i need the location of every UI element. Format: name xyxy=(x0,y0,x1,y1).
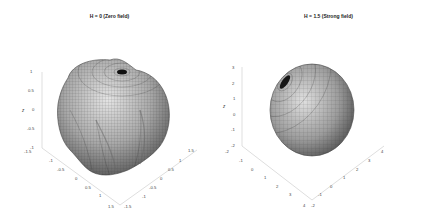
svg-text:-2: -2 xyxy=(225,149,229,154)
svg-text:z: z xyxy=(222,104,226,109)
svg-text:2: 2 xyxy=(276,184,279,189)
svg-text:0: 0 xyxy=(75,176,78,181)
x-axis-ticks: -2 -1 0 1 2 3 4 xyxy=(225,149,306,208)
svg-text:z: z xyxy=(21,108,25,113)
svg-text:-1: -1 xyxy=(142,194,146,199)
svg-text:0.5: 0.5 xyxy=(28,88,34,93)
surface-mesh xyxy=(220,13,364,160)
svg-text:1: 1 xyxy=(179,158,182,163)
plot-zero-field: H = 0 (Zero field) 1 0.5 0 -0.5 xyxy=(0,0,219,219)
svg-text:-1.5: -1.5 xyxy=(124,204,132,209)
svg-text:0: 0 xyxy=(251,167,254,172)
svg-text:1: 1 xyxy=(343,175,346,180)
svg-text:1.5: 1.5 xyxy=(188,148,194,153)
svg-text:2: 2 xyxy=(356,167,359,172)
z-axis-ticks: 3 2 1 0 -1 -2 z xyxy=(222,65,236,148)
z-axis-ticks: 1 0.5 0 -0.5 -1 z xyxy=(21,69,35,150)
svg-text:-1: -1 xyxy=(49,158,53,163)
svg-text:3: 3 xyxy=(289,192,292,197)
surface-plot-zero-field: 1 0.5 0 -0.5 -1 z -1.5 -1 -0.5 0 0.5 1 1… xyxy=(0,0,219,219)
svg-text:-1.5: -1.5 xyxy=(24,149,32,154)
svg-text:-0.5: -0.5 xyxy=(27,126,35,131)
svg-text:0.5: 0.5 xyxy=(168,167,174,172)
svg-text:-2: -2 xyxy=(231,143,235,148)
svg-text:1: 1 xyxy=(264,175,267,180)
svg-text:3: 3 xyxy=(232,65,235,70)
svg-text:2: 2 xyxy=(232,81,235,86)
svg-text:0: 0 xyxy=(32,107,35,112)
svg-text:-1: -1 xyxy=(231,127,235,132)
svg-text:1: 1 xyxy=(233,96,236,101)
svg-text:1: 1 xyxy=(99,193,102,198)
svg-text:-1: -1 xyxy=(239,158,243,163)
svg-text:0: 0 xyxy=(233,112,236,117)
dimple xyxy=(117,70,127,75)
svg-text:4: 4 xyxy=(303,203,306,208)
svg-text:-0.5: -0.5 xyxy=(149,185,157,190)
y-axis-ticks: 4 3 2 1 0 -1 -2 xyxy=(311,149,384,208)
svg-text:-0.5: -0.5 xyxy=(57,167,65,172)
plot-strong-field: H = 1.5 (Strong field) 3 2 1 0 -1 xyxy=(219,0,438,219)
svg-text:-2: -2 xyxy=(311,203,315,208)
svg-text:4: 4 xyxy=(381,149,384,154)
svg-text:3: 3 xyxy=(368,158,371,163)
surface-mesh xyxy=(50,48,180,185)
svg-text:1: 1 xyxy=(30,69,33,74)
svg-text:1.5: 1.5 xyxy=(108,204,114,209)
svg-text:0.5: 0.5 xyxy=(85,185,91,190)
svg-text:0: 0 xyxy=(160,176,163,181)
surface-plot-strong-field: 3 2 1 0 -1 -2 z -2 -1 0 1 2 3 4 4 3 2 1 … xyxy=(219,0,438,219)
